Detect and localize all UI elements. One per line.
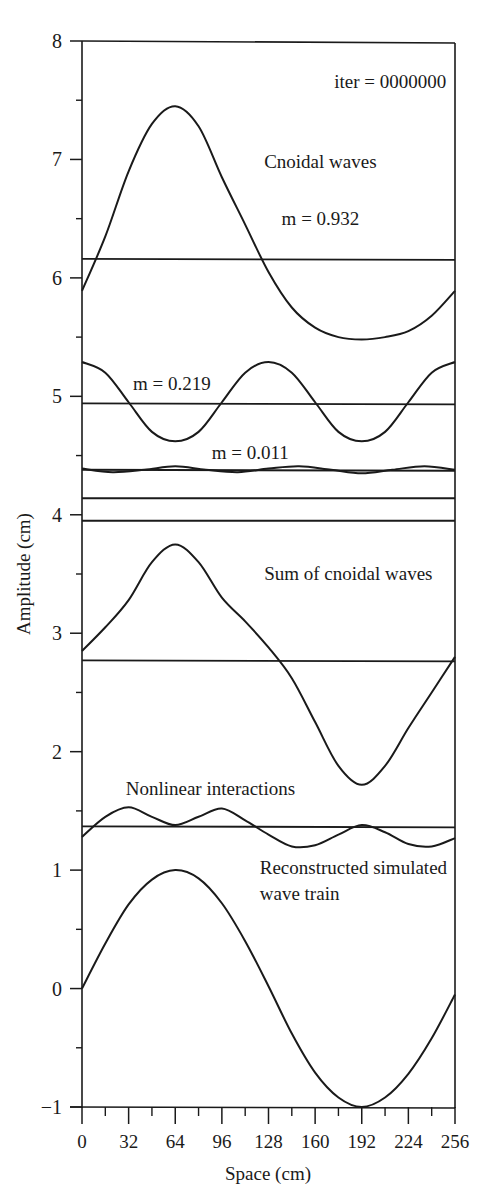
annotation-label: m = 0.011 xyxy=(212,442,289,463)
annotation-label: m = 0.932 xyxy=(282,208,360,229)
annotation-label: wave train xyxy=(260,883,340,904)
annotation-label: iter = 0000000 xyxy=(334,71,446,92)
x-tick-label: 192 xyxy=(348,1131,377,1152)
annotation-label: Sum of cnoidal waves xyxy=(264,563,432,584)
x-tick-label: 160 xyxy=(301,1131,330,1152)
baseline xyxy=(82,403,455,404)
y-tick-label: 7 xyxy=(52,148,62,170)
series-reconstructed-simulated-wave-train xyxy=(82,870,455,1107)
y-tick-label: −1 xyxy=(41,1096,62,1118)
series-cnoidal-wave-m-0-011 xyxy=(82,466,455,473)
y-axis-label: Amplitude (cm) xyxy=(13,513,35,635)
y-axis-ticks: −1012345678 xyxy=(41,30,82,1118)
series-cnoidal-wave-m-0-932 xyxy=(82,106,455,339)
annotation-label: Cnoidal waves xyxy=(264,151,376,172)
x-axis-label: Space (cm) xyxy=(225,1163,311,1185)
y-tick-label: 4 xyxy=(52,504,62,526)
baseline xyxy=(82,826,455,827)
y-tick-label: 2 xyxy=(52,741,62,763)
x-tick-label: 64 xyxy=(166,1131,186,1152)
x-tick-label: 96 xyxy=(212,1131,231,1152)
baseline xyxy=(82,660,455,661)
x-tick-label: 256 xyxy=(441,1131,470,1152)
chart-annotations: iter = 0000000Cnoidal wavesm = 0.932m = … xyxy=(126,71,448,903)
x-tick-label: 224 xyxy=(394,1131,423,1152)
x-tick-label: 0 xyxy=(77,1131,87,1152)
baseline xyxy=(82,259,455,260)
series-line xyxy=(82,870,455,1107)
y-tick-label: 5 xyxy=(52,385,62,407)
y-tick-label: 1 xyxy=(52,859,62,881)
y-tick-label: 8 xyxy=(52,30,62,52)
chart-series xyxy=(82,106,455,1107)
y-tick-label: 6 xyxy=(52,267,62,289)
x-tick-label: 32 xyxy=(119,1131,138,1152)
series-line xyxy=(82,106,455,339)
y-tick-label: 0 xyxy=(52,978,62,1000)
annotation-label: Reconstructed simulated xyxy=(260,857,448,878)
cnoidal-wave-chart: −1012345678 0326496128160192224256 iter … xyxy=(0,0,482,1195)
annotation-label: Nonlinear interactions xyxy=(126,778,295,799)
y-tick-label: 3 xyxy=(52,622,62,644)
x-tick-label: 128 xyxy=(254,1131,283,1152)
series-nonlinear-interactions xyxy=(82,807,455,847)
x-axis-ticks: 0326496128160192224256 xyxy=(77,1107,469,1152)
annotation-label: m = 0.219 xyxy=(133,373,211,394)
